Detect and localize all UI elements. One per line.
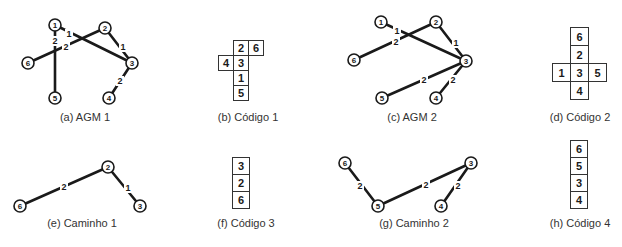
code-cell: 3 bbox=[570, 174, 588, 192]
svg-text:5: 5 bbox=[380, 94, 385, 103]
node-2: 2 bbox=[99, 22, 111, 34]
svg-text:3: 3 bbox=[464, 57, 469, 66]
node-6: 6 bbox=[14, 200, 26, 212]
svg-text:2: 2 bbox=[434, 18, 439, 27]
node-3: 3 bbox=[465, 157, 477, 169]
node-6: 6 bbox=[339, 157, 351, 169]
svg-text:1: 1 bbox=[53, 21, 58, 30]
code-cell: 3 bbox=[233, 55, 249, 71]
caption-codigo2: (d) Código 2 bbox=[550, 111, 611, 123]
svg-text:3: 3 bbox=[138, 202, 143, 211]
code-cell: 1 bbox=[552, 63, 571, 82]
caminho2-graph: 2226534 bbox=[339, 157, 477, 212]
edge-weight-label: 2 bbox=[63, 42, 68, 52]
node-4: 4 bbox=[435, 200, 447, 212]
agm2-graph: 11222123456 bbox=[348, 16, 472, 104]
node-2: 2 bbox=[102, 161, 114, 173]
edge-weight-label: 2 bbox=[421, 75, 426, 85]
node-5: 5 bbox=[376, 92, 388, 104]
edge-weight-label: 2 bbox=[423, 180, 428, 190]
edge-weight-label: 1 bbox=[120, 42, 125, 52]
node-4: 4 bbox=[430, 92, 442, 104]
node-5: 5 bbox=[49, 92, 61, 104]
svg-text:3: 3 bbox=[469, 159, 474, 168]
edge-weight-label: 2 bbox=[61, 182, 66, 192]
edge-weight-label: 2 bbox=[393, 37, 398, 47]
graphs-canvas: 1122212345611222123456212362226534 bbox=[0, 0, 622, 247]
caption-codigo1: (b) Código 1 bbox=[218, 111, 279, 123]
edge-weight-label: 1 bbox=[66, 29, 71, 39]
edge-weight-label: 2 bbox=[455, 181, 460, 191]
code-cell: 2 bbox=[570, 45, 589, 64]
edge-weight-label: 2 bbox=[117, 76, 122, 86]
node-1: 1 bbox=[49, 19, 61, 31]
svg-text:2: 2 bbox=[106, 163, 111, 172]
code-cell: 6 bbox=[248, 40, 264, 56]
svg-text:4: 4 bbox=[434, 94, 439, 103]
svg-text:6: 6 bbox=[352, 56, 357, 65]
code-cell: 5 bbox=[588, 63, 607, 82]
agm1-graph: 11222123456 bbox=[22, 19, 138, 104]
node-6: 6 bbox=[348, 54, 360, 66]
svg-text:6: 6 bbox=[26, 59, 31, 68]
svg-text:5: 5 bbox=[53, 94, 58, 103]
code-cell: 6 bbox=[232, 191, 250, 209]
code-cell: 4 bbox=[570, 191, 588, 209]
caption-codigo4: (h) Código 4 bbox=[550, 217, 611, 229]
node-3: 3 bbox=[126, 57, 138, 69]
code-cell: 3 bbox=[232, 157, 250, 175]
code-cell: 4 bbox=[218, 55, 234, 71]
edge-weight-label: 2 bbox=[357, 181, 362, 191]
caminho1-graph: 21236 bbox=[14, 161, 146, 212]
code-cell: 2 bbox=[233, 40, 249, 56]
svg-text:4: 4 bbox=[439, 202, 444, 211]
svg-text:5: 5 bbox=[376, 202, 381, 211]
code-cell: 6 bbox=[570, 140, 588, 158]
code-cell: 6 bbox=[570, 27, 589, 46]
edge-weight-label: 2 bbox=[52, 36, 57, 46]
code-cell: 5 bbox=[233, 85, 249, 101]
node-1: 1 bbox=[375, 16, 387, 28]
edge-weight-label: 1 bbox=[125, 183, 130, 193]
svg-text:4: 4 bbox=[107, 94, 112, 103]
caption-codigo3: (f) Código 3 bbox=[217, 217, 274, 229]
svg-text:6: 6 bbox=[343, 159, 348, 168]
svg-text:2: 2 bbox=[103, 24, 108, 33]
node-6: 6 bbox=[22, 57, 34, 69]
code-cell: 2 bbox=[232, 174, 250, 192]
node-3: 3 bbox=[460, 55, 472, 67]
edge-weight-label: 2 bbox=[450, 75, 455, 85]
code-cell: 3 bbox=[570, 63, 589, 82]
svg-text:3: 3 bbox=[130, 59, 135, 68]
node-3: 3 bbox=[134, 200, 146, 212]
caption-agm2: (c) AGM 2 bbox=[387, 111, 437, 123]
caption-caminho1: (e) Caminho 1 bbox=[47, 217, 117, 229]
caption-caminho2: (g) Caminho 2 bbox=[379, 217, 449, 229]
caption-agm1: (a) AGM 1 bbox=[60, 111, 110, 123]
edge-weight-label: 1 bbox=[453, 38, 458, 48]
svg-text:6: 6 bbox=[18, 202, 23, 211]
node-4: 4 bbox=[103, 92, 115, 104]
node-2: 2 bbox=[430, 16, 442, 28]
edge-weight-label: 1 bbox=[394, 26, 399, 36]
svg-text:1: 1 bbox=[379, 18, 384, 27]
code-cell: 4 bbox=[570, 81, 589, 100]
code-cell: 1 bbox=[233, 70, 249, 86]
node-5: 5 bbox=[372, 200, 384, 212]
code-cell: 5 bbox=[570, 157, 588, 175]
